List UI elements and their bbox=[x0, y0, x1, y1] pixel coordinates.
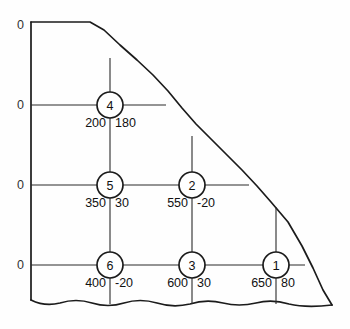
axis-label-0-top: 0 bbox=[17, 18, 24, 32]
node-5-left-value: 350 bbox=[85, 196, 106, 210]
axis-label-0-bottom: 0 bbox=[17, 258, 24, 272]
axis-label-0-third: 0 bbox=[17, 178, 24, 192]
node-1-label: 1 bbox=[272, 258, 279, 273]
node-3-left-value: 600 bbox=[167, 276, 188, 290]
node-2-right-value: -20 bbox=[197, 196, 215, 210]
node-4-right-value: 180 bbox=[115, 116, 136, 130]
boundary-bottom-wave bbox=[31, 300, 332, 306]
network-diagram: 0 0 0 0 4 200 180 5 350 30 2 550 -20 6 4… bbox=[0, 0, 350, 329]
node-6-left-value: 400 bbox=[85, 276, 106, 290]
node-4-left-value: 200 bbox=[85, 116, 106, 130]
node-6-label: 6 bbox=[107, 259, 114, 273]
diagram-canvas: 0 0 0 0 4 200 180 5 350 30 2 550 -20 6 4… bbox=[0, 0, 350, 329]
node-1-right-value: 80 bbox=[281, 276, 295, 290]
axis-label-0-second: 0 bbox=[17, 98, 24, 112]
node-5-right-value: 30 bbox=[115, 196, 129, 210]
node-6-right-value: -20 bbox=[115, 276, 133, 290]
node-1-left-value: 650 bbox=[251, 276, 272, 290]
node-2-left-value: 550 bbox=[167, 196, 188, 210]
node-2-label: 2 bbox=[189, 179, 196, 193]
node-5-label: 5 bbox=[107, 179, 114, 193]
node-3-label: 3 bbox=[189, 259, 196, 273]
node-4-label: 4 bbox=[107, 99, 114, 113]
node-3-right-value: 30 bbox=[197, 276, 211, 290]
